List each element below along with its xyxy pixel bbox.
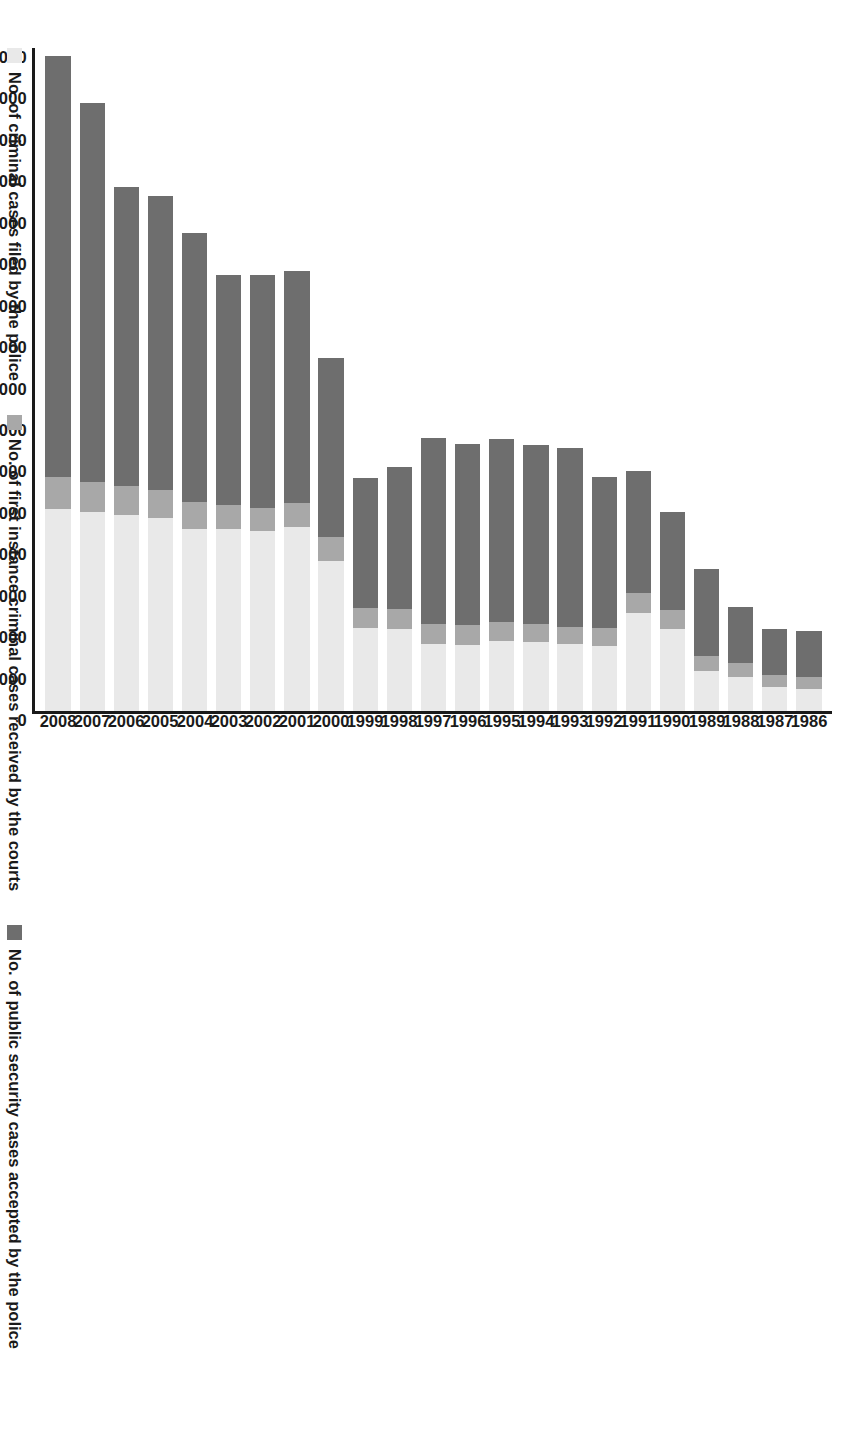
bar-segment-public-security-1987 — [762, 629, 787, 675]
bar-segment-police-filed-2000 — [319, 561, 344, 711]
category-tick-label-2004: 2004 — [176, 712, 213, 731]
category-tick-label-2000: 2000 — [313, 712, 350, 731]
bar-group-1995 — [489, 439, 514, 711]
bar-segment-police-filed-2008 — [45, 509, 70, 711]
category-tick-label-1986: 1986 — [791, 712, 828, 731]
chart-legend: No. of criminal cases filed by the polic… — [5, 48, 24, 1383]
bar-segment-public-security-2007 — [80, 103, 105, 482]
category-tick-label-1996: 1996 — [449, 712, 486, 731]
bar-segment-public-security-2005 — [148, 196, 173, 490]
bar-segment-public-security-1998 — [387, 467, 412, 609]
bar-group-1994 — [523, 445, 548, 711]
bar-segment-police-filed-1992 — [592, 646, 617, 711]
legend-label: No. of criminal cases filed by the polic… — [5, 72, 24, 381]
bar-segment-courts-2002 — [250, 508, 275, 531]
bar-segment-police-filed-1999 — [353, 628, 378, 711]
bar-segment-courts-2001 — [284, 503, 309, 526]
category-tick-label-2003: 2003 — [210, 712, 247, 731]
legend-swatch-icon — [7, 925, 22, 940]
category-tick-label-1988: 1988 — [722, 712, 759, 731]
bar-segment-police-filed-2006 — [114, 515, 139, 711]
bar-segment-police-filed-1996 — [455, 645, 480, 711]
bar-segment-courts-2005 — [148, 490, 173, 518]
bar-segment-public-security-1986 — [796, 631, 821, 677]
bar-segment-police-filed-2004 — [182, 529, 207, 711]
bar-segment-public-security-1994 — [523, 445, 548, 624]
bar-segment-public-security-2000 — [319, 358, 344, 538]
bar-segment-courts-1991 — [626, 593, 651, 613]
bar-segment-police-filed-2007 — [80, 512, 105, 711]
bar-group-2003 — [216, 275, 241, 711]
legend-label: No. of first instance criminal cases rec… — [5, 439, 24, 891]
bar-segment-courts-1996 — [455, 625, 480, 644]
plot-area: 16 000 00015 000 00014 000 00013 000 000… — [0, 0, 846, 1432]
bar-segment-police-filed-1994 — [523, 642, 548, 711]
bar-segment-police-filed-1995 — [489, 641, 514, 711]
bar-segment-courts-1995 — [489, 622, 514, 641]
bar-segment-public-security-2002 — [250, 275, 275, 508]
bar-segment-courts-2003 — [216, 505, 241, 529]
category-tick-label-1991: 1991 — [620, 712, 657, 731]
bar-segment-courts-1998 — [387, 609, 412, 629]
bar-segment-public-security-2003 — [216, 275, 241, 505]
bar-segment-courts-2000 — [319, 537, 344, 560]
category-tick-label-1990: 1990 — [654, 712, 691, 731]
bar-segment-courts-1988 — [728, 663, 753, 677]
bar-segment-courts-1989 — [694, 656, 719, 671]
bar-segment-public-security-1988 — [728, 607, 753, 663]
legend-swatch-icon — [7, 48, 22, 63]
legend-item-1[interactable]: No. of first instance criminal cases rec… — [5, 415, 24, 891]
bar-segment-public-security-1989 — [694, 569, 719, 656]
bar-group-2005 — [148, 196, 173, 711]
bar-segment-public-security-1999 — [353, 478, 378, 609]
value-axis-line — [32, 48, 35, 714]
category-tick-label-1994: 1994 — [518, 712, 555, 731]
bar-segment-public-security-2001 — [284, 271, 309, 504]
bar-segment-courts-1987 — [762, 675, 787, 688]
category-tick-label-1987: 1987 — [756, 712, 793, 731]
bar-segment-police-filed-1997 — [421, 644, 446, 711]
bar-segment-police-filed-2002 — [250, 531, 275, 711]
bar-segment-police-filed-1993 — [557, 644, 582, 711]
category-tick-label-1992: 1992 — [586, 712, 623, 731]
bar-segment-police-filed-2005 — [148, 518, 173, 711]
legend-item-0[interactable]: No. of criminal cases filed by the polic… — [5, 48, 24, 381]
bar-segment-courts-1992 — [592, 628, 617, 646]
bar-segment-courts-1997 — [421, 624, 446, 644]
bar-group-2006 — [114, 187, 139, 711]
bar-segment-police-filed-1987 — [762, 687, 787, 711]
category-tick-label-2002: 2002 — [245, 712, 282, 731]
bar-group-1992 — [592, 477, 617, 711]
category-tick-label-2001: 2001 — [279, 712, 316, 731]
bar-segment-courts-1993 — [557, 627, 582, 644]
bar-segment-public-security-1995 — [489, 439, 514, 622]
bar-group-1990 — [660, 512, 685, 711]
bar-group-1987 — [762, 629, 787, 711]
bar-group-2004 — [182, 233, 207, 711]
legend-item-2[interactable]: No. of public security cases accepted by… — [5, 925, 24, 1349]
bar-segment-police-filed-1998 — [387, 629, 412, 711]
category-tick-label-1989: 1989 — [688, 712, 725, 731]
bar-segment-public-security-1991 — [626, 471, 651, 592]
bar-group-2007 — [80, 103, 105, 711]
bar-segment-police-filed-1989 — [694, 671, 719, 711]
bar-segment-public-security-1990 — [660, 512, 685, 610]
bar-group-2002 — [250, 275, 275, 711]
bar-segment-public-security-1997 — [421, 438, 446, 624]
bar-segment-police-filed-1988 — [728, 677, 753, 711]
bar-segment-public-security-1992 — [592, 477, 617, 627]
bar-group-1996 — [455, 444, 480, 711]
legend-swatch-icon — [7, 415, 22, 430]
category-tick-label-1997: 1997 — [415, 712, 452, 731]
category-tick-label-2005: 2005 — [142, 712, 179, 731]
bar-group-1988 — [728, 607, 753, 711]
bar-segment-courts-1990 — [660, 610, 685, 629]
bar-segment-police-filed-2003 — [216, 529, 241, 711]
category-tick-label-1993: 1993 — [552, 712, 589, 731]
bar-segment-courts-1994 — [523, 624, 548, 642]
bar-group-1997 — [421, 438, 446, 711]
bar-segment-public-security-1993 — [557, 448, 582, 627]
bar-segment-public-security-2006 — [114, 187, 139, 485]
bar-segment-public-security-2004 — [182, 233, 207, 502]
bar-group-1998 — [387, 467, 412, 711]
